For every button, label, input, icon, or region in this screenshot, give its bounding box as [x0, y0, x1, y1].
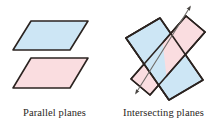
parallel-planes-panel: Parallel planes — [0, 0, 109, 132]
parallel-planes-diagram — [0, 0, 109, 106]
intersecting-planes-panel: Intersecting planes — [109, 0, 218, 132]
caption-intersecting-planes: Intersecting planes — [109, 106, 218, 119]
plane-pink-bottom — [13, 58, 88, 88]
intersecting-planes-diagram — [109, 0, 218, 106]
caption-parallel-planes: Parallel planes — [0, 106, 109, 119]
figure-illustration: Parallel planes — [0, 0, 218, 132]
plane-blue-top — [13, 21, 88, 50]
